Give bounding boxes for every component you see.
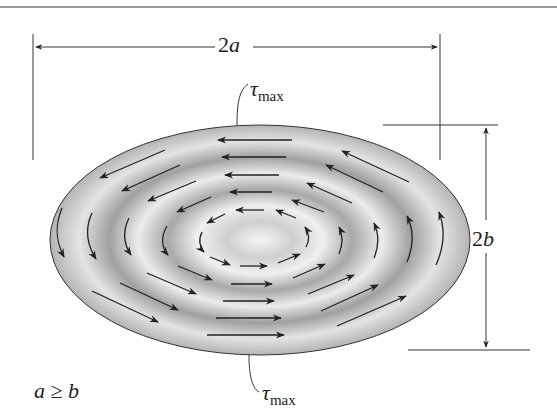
tau-max-top-label: τmax	[250, 78, 284, 100]
tau-top-leader	[237, 84, 248, 125]
ellipse-diagram	[0, 0, 557, 420]
elliptical-cross-section	[50, 125, 470, 355]
width-label: 2a	[218, 34, 240, 56]
tau-max-bottom-label: τmax	[262, 382, 296, 404]
tau-bottom-leader	[249, 355, 259, 392]
condition-label: a ≥ b	[34, 380, 79, 402]
height-label: 2b	[472, 226, 494, 252]
